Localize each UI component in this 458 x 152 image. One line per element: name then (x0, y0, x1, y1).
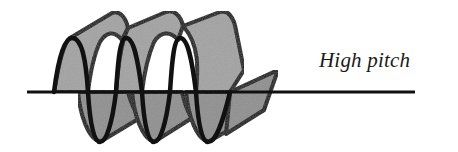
high-pitch-label: High pitch (319, 48, 410, 73)
high-pitch-wave-diagram (0, 0, 458, 152)
